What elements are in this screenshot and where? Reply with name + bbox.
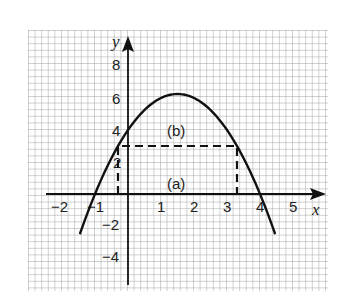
- y-tick-label: 4: [112, 122, 120, 139]
- y-tick-label: 6: [112, 90, 120, 107]
- x-tick-label: 5: [289, 198, 297, 215]
- region-b-label: (b): [167, 122, 185, 139]
- grid-background: [28, 30, 328, 291]
- x-tick-label: 2: [190, 198, 198, 215]
- y-tick-label: −4: [102, 248, 119, 265]
- y-axis-label: y: [110, 32, 120, 51]
- y-tick-label: 8: [112, 56, 120, 73]
- y-tick-label: −2: [102, 216, 119, 233]
- x-tick-label: 3: [223, 198, 231, 215]
- x-tick-label: 1: [157, 198, 165, 215]
- region-a-label: (a): [167, 175, 185, 192]
- x-axis-label: x: [311, 200, 320, 219]
- graph-figure: y x −2 −1 1 2 3 4 5 8 6 4 2 −2 −4 (a) (b…: [0, 0, 345, 305]
- x-tick-label: −2: [51, 198, 68, 215]
